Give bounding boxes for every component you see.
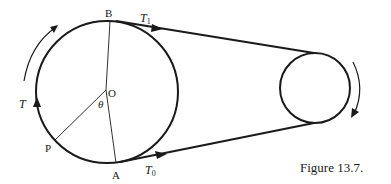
large-pulley: [36, 21, 178, 163]
figure-caption: Figure 13.7.: [300, 160, 363, 175]
label-T0: T0: [145, 163, 156, 178]
belt-pulley-diagram: B A O P θ T T1 T0 Figure 13.7.: [0, 0, 391, 184]
rotation-arrow-small-head-icon: [351, 108, 359, 118]
radius-OB: [106, 21, 110, 90]
label-T: T: [19, 97, 27, 111]
belt-top-segment: [116, 21, 314, 53]
label-T1: T1: [140, 11, 151, 26]
label-theta: θ: [98, 98, 104, 110]
label-P: P: [45, 142, 51, 154]
radius-OA: [106, 90, 116, 163]
label-B: B: [105, 7, 112, 19]
rotation-arrow-large-head-icon: [50, 25, 58, 33]
tension-T-arrow-icon: [33, 97, 41, 107]
label-T1-sub: 1: [147, 17, 151, 26]
label-A: A: [112, 169, 120, 181]
belt-bottom-segment: [120, 123, 314, 162]
rotation-arrow-large: [24, 27, 56, 81]
rotation-arrow-small: [353, 62, 360, 114]
label-O: O: [108, 87, 116, 99]
label-T0-sub: 0: [152, 169, 156, 178]
small-pulley: [280, 53, 350, 123]
